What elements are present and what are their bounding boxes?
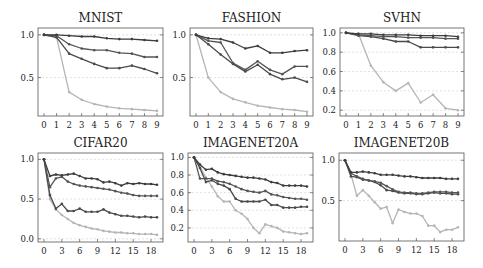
axes-frame [339,153,464,241]
data-point [78,224,81,227]
x-tick-label: 15 [278,246,289,256]
data-point [216,195,219,198]
data-point [131,52,134,55]
data-point [282,196,285,199]
data-point [432,93,435,96]
x-tick-label: 9 [154,120,159,130]
subplot-title: FASHION [222,11,282,25]
data-point [199,167,202,170]
data-point [246,190,249,193]
data-point [232,41,235,44]
data-point [382,81,385,84]
data-point [276,227,279,230]
data-point [258,200,261,203]
data-point [102,208,105,211]
data-point [306,81,309,84]
data-point [270,181,273,184]
data-point [409,212,412,215]
data-point [457,109,460,112]
data-point [144,233,147,236]
data-point [444,34,447,37]
data-point [294,198,297,201]
x-tick-label: 9 [304,120,309,130]
data-point [457,226,460,229]
data-point [306,65,309,68]
data-point [80,47,83,50]
data-point [367,179,370,182]
data-point [403,211,406,214]
data-point [234,198,237,201]
data-point [228,188,231,191]
data-point [240,200,243,203]
data-point [282,206,285,209]
data-point [433,224,436,227]
data-point [144,183,147,186]
data-point [252,176,255,179]
data-point [370,64,373,67]
data-point [246,218,249,221]
data-point [350,175,353,178]
subplot-title: CIFAR20 [73,136,127,150]
data-point [270,193,273,196]
data-point [55,173,58,176]
data-point [66,218,69,221]
data-point [205,177,208,180]
data-point [394,33,397,36]
data-point [234,209,237,212]
y-tick-label: 1.0 [20,30,34,40]
data-point [222,184,225,187]
data-point [234,185,237,188]
x-tick-label: 0 [191,246,196,256]
data-point [126,182,129,185]
data-point [270,204,273,207]
data-point [55,207,58,210]
x-tick-label: 15 [429,245,440,255]
data-point [120,231,123,234]
data-point [222,181,225,184]
data-point [258,232,261,235]
data-point [373,172,376,175]
data-point [357,33,360,36]
data-point [379,173,382,176]
y-tick-label: 0.2 [170,223,184,233]
data-point [306,232,309,235]
subplot-mnist: MNIST 0.51.00123456789 [20,11,163,130]
subplot-title: IMAGENET20B [354,136,450,150]
x-tick-label: 6 [378,245,383,255]
data-point [131,108,134,111]
data-point [90,186,93,189]
data-point [120,184,123,187]
data-point [439,231,442,234]
data-point [105,37,108,40]
data-point [288,184,291,187]
axes-frame [38,153,163,242]
line-series-2 [344,159,460,195]
data-point [84,211,87,214]
data-point [258,177,261,180]
data-point [216,180,219,183]
data-point [114,182,117,185]
y-tick-label: 0.6 [322,67,336,77]
data-point [132,194,135,197]
data-point [432,34,435,37]
data-point [445,190,448,193]
data-point [288,197,291,200]
data-point [199,163,202,166]
subplot-fashion: FASHION 0.51.00123456789 [172,11,313,130]
data-point [132,232,135,235]
data-point [252,227,255,230]
data-point [457,191,460,194]
data-point [150,195,153,198]
data-point [240,188,243,191]
chart-canvas: MNIST 0.51.00123456789 FASHION 0.51.0012… [0,0,483,268]
data-point [433,177,436,180]
x-tick-label: 3 [79,120,84,130]
y-tick-label: 0.6 [170,188,184,198]
y-tick-label: 0.5 [20,194,34,204]
x-tick-label: 8 [142,120,147,130]
data-point [61,214,64,217]
data-point [118,67,121,70]
subplot-cifar20: CIFAR20 0.00.51.00369121518 [20,136,163,256]
data-point [276,194,279,197]
figure-grid: MNIST 0.51.00123456789 FASHION 0.51.0012… [0,0,483,268]
